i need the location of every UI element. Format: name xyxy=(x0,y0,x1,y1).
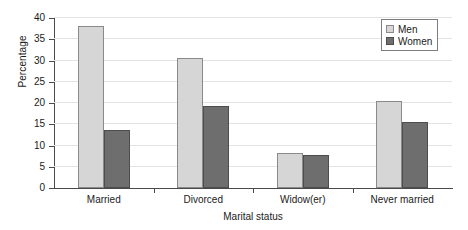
y-tick-label: 15 xyxy=(5,119,45,129)
gridline xyxy=(54,81,452,82)
bar-men-never-married[interactable] xyxy=(376,101,402,188)
y-tick-label: 30 xyxy=(5,56,45,66)
x-tick-label-never-married: Never married xyxy=(342,194,462,206)
y-tick-mark xyxy=(49,188,54,189)
legend-swatch-men-icon xyxy=(386,25,394,33)
bar-men-divorced[interactable] xyxy=(177,58,203,188)
y-tick-label: 40 xyxy=(5,13,45,23)
bar-women-widow-er[interactable] xyxy=(303,155,329,188)
x-tick-mark xyxy=(154,189,155,193)
bar-men-married[interactable] xyxy=(78,26,104,188)
chart-legend: Men Women xyxy=(381,19,438,51)
y-tick-label: 25 xyxy=(5,77,45,87)
y-tick-label: 20 xyxy=(5,98,45,108)
legend-item-men[interactable]: Men xyxy=(386,23,432,35)
bar-women-divorced[interactable] xyxy=(203,106,229,188)
bar-men-widow-er[interactable] xyxy=(277,153,303,188)
x-tick-mark xyxy=(353,189,354,193)
bar-women-married[interactable] xyxy=(104,130,130,188)
legend-label-women: Women xyxy=(398,36,432,47)
y-tick-label: 5 xyxy=(5,162,45,172)
legend-label-men: Men xyxy=(398,24,417,35)
x-axis-title: Marital status xyxy=(54,211,452,222)
y-tick-label: 0 xyxy=(5,183,45,193)
gridline xyxy=(54,60,452,61)
y-tick-label: 35 xyxy=(5,34,45,44)
x-tick-mark xyxy=(253,189,254,193)
bar-chart: Percentage 0510152025303540 MarriedDivor… xyxy=(0,0,468,230)
y-tick-label: 10 xyxy=(5,141,45,151)
gridline xyxy=(54,17,452,18)
bar-women-never-married[interactable] xyxy=(402,122,428,188)
legend-swatch-women-icon xyxy=(386,37,394,45)
legend-item-women[interactable]: Women xyxy=(386,35,432,47)
